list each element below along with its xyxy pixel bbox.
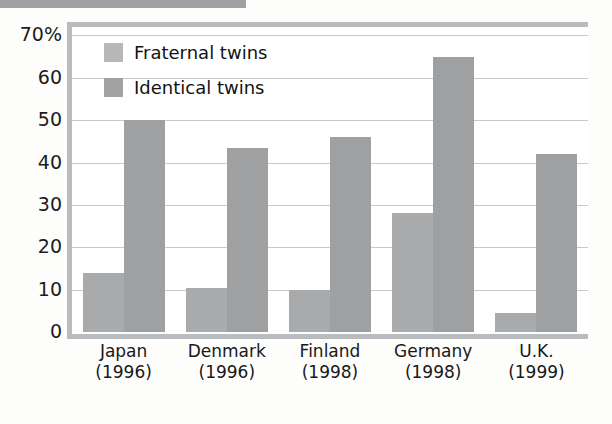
bar-denmark-identical <box>227 148 268 332</box>
x-tick-country: Japan <box>100 341 147 361</box>
x-tick-year: (1999) <box>485 362 588 383</box>
x-tick-country: Denmark <box>188 341 266 361</box>
y-tick-label-20: 20 <box>4 237 62 256</box>
x-axis-baseline <box>67 334 588 339</box>
bar-denmark-fraternal <box>186 288 227 332</box>
bar-finland-identical <box>330 137 371 332</box>
bar-finland-fraternal <box>289 290 330 332</box>
x-tick-country: U.K. <box>519 341 553 361</box>
bar-japan-identical <box>124 120 165 332</box>
y-tick-label-10: 10 <box>4 280 62 299</box>
y-tick-label-50: 50 <box>4 110 62 129</box>
legend-item-fraternal: Fraternal twins <box>104 41 294 64</box>
bar-germany-fraternal <box>392 213 433 332</box>
legend-swatch-identical-icon <box>104 78 123 97</box>
chart-legend: Fraternal twinsIdentical twins <box>104 41 294 111</box>
legend-item-identical: Identical twins <box>104 76 294 99</box>
bar-japan-fraternal <box>83 273 124 332</box>
x-tick-label-japan: Japan(1996) <box>72 341 175 383</box>
x-tick-label-uk: U.K.(1999) <box>485 341 588 383</box>
chart-page: 010203040506070% Japan(1996)Denmark(1996… <box>0 0 612 424</box>
bar-germany-identical <box>433 57 474 332</box>
bar-uk-identical <box>536 154 577 332</box>
x-tick-year: (1996) <box>72 362 175 383</box>
x-tick-label-germany: Germany(1998) <box>382 341 485 383</box>
x-tick-label-denmark: Denmark(1996) <box>175 341 278 383</box>
x-tick-year: (1998) <box>278 362 381 383</box>
x-axis-labels: Japan(1996)Denmark(1996)Finland(1998)Ger… <box>72 341 588 401</box>
legend-label: Identical twins <box>134 79 265 97</box>
legend-label: Fraternal twins <box>134 44 267 62</box>
x-tick-country: Germany <box>394 341 472 361</box>
x-tick-label-finland: Finland(1998) <box>278 341 381 383</box>
bar-uk-fraternal <box>495 313 536 332</box>
y-tick-label-40: 40 <box>4 153 62 172</box>
x-tick-year: (1996) <box>175 362 278 383</box>
y-tick-label-70: 70% <box>4 25 62 44</box>
y-tick-label-0: 0 <box>4 322 62 341</box>
y-tick-label-30: 30 <box>4 195 62 214</box>
y-tick-label-60: 60 <box>4 68 62 87</box>
x-tick-country: Finland <box>300 341 361 361</box>
legend-swatch-fraternal-icon <box>104 43 123 62</box>
gridline-70 <box>72 35 588 36</box>
x-tick-year: (1998) <box>382 362 485 383</box>
y-axis-labels: 010203040506070% <box>0 0 62 424</box>
